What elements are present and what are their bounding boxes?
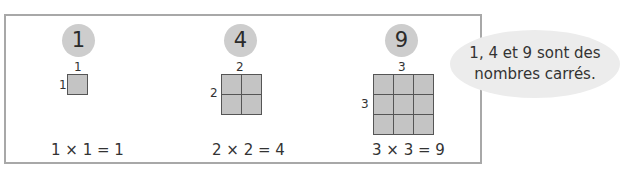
- equation-3: 3 × 3 = 9: [372, 141, 445, 159]
- grid-cell: [394, 115, 413, 134]
- grid-cell: [414, 75, 433, 94]
- side-label-left-2: 2: [210, 86, 218, 100]
- bubble-line-2: nombres carrés.: [469, 64, 600, 85]
- square-number-badge-4: 4: [224, 24, 257, 57]
- grid-cell: [222, 95, 241, 114]
- square-grid-1x1: [67, 74, 88, 95]
- grid-cell: [394, 75, 413, 94]
- side-label-left-1: 1: [59, 78, 67, 92]
- side-label-top-2: 2: [236, 60, 244, 74]
- square-number-badge-1: 1: [62, 24, 95, 57]
- equation-2: 2 × 2 = 4: [212, 141, 285, 159]
- bubble-line-1: 1, 4 et 9 sont des: [469, 43, 600, 64]
- side-label-left-3: 3: [361, 97, 369, 111]
- grid-cell: [394, 95, 413, 114]
- grid-cell: [414, 115, 433, 134]
- grid-cell: [68, 75, 87, 94]
- speech-bubble: 1, 4 et 9 sont des nombres carrés.: [450, 30, 620, 98]
- side-label-top-1: 1: [74, 60, 82, 74]
- side-label-top-3: 3: [398, 60, 406, 74]
- square-grid-3x3: [373, 74, 434, 135]
- square-grid-2x2: [221, 74, 262, 115]
- grid-cell: [374, 95, 393, 114]
- grid-cell: [374, 115, 393, 134]
- grid-cell: [222, 75, 241, 94]
- grid-cell: [242, 95, 261, 114]
- square-number-badge-9: 9: [385, 24, 418, 57]
- equation-1: 1 × 1 = 1: [51, 141, 124, 159]
- grid-cell: [242, 75, 261, 94]
- grid-cell: [414, 95, 433, 114]
- grid-cell: [374, 75, 393, 94]
